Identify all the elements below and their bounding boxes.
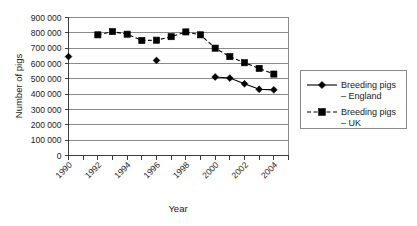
series-england	[65, 53, 277, 93]
y-tick-label: 500 000	[31, 74, 62, 84]
square-marker-icon	[319, 109, 326, 116]
y-tick-label: 300 000	[31, 105, 62, 115]
y-tick-label: 200 000	[31, 120, 62, 130]
data-point-marker	[65, 53, 72, 60]
data-point-marker	[95, 32, 101, 38]
x-tick-label: 2004	[259, 160, 280, 181]
y-tick-label: 0	[57, 151, 62, 161]
x-tick-label: 1996	[141, 160, 162, 181]
x-tick-label: 2000	[200, 160, 221, 181]
chart-page: 0100 000200 000300 000400 000500 000600 …	[0, 0, 417, 226]
x-tick-label: 1998	[171, 160, 192, 181]
legend-label-england-line2: – England	[341, 91, 382, 101]
legend: Breeding pigs – England Breeding pigs – …	[301, 71, 407, 129]
data-point-marker	[271, 71, 277, 77]
pig-population-line-chart: 0100 000200 000300 000400 000500 000600 …	[0, 0, 417, 226]
data-point-marker	[153, 57, 160, 64]
x-tick-label: 2002	[229, 160, 250, 181]
data-point-marker	[212, 45, 218, 51]
y-tick-marks	[65, 18, 69, 156]
series-line	[98, 32, 274, 74]
data-point-marker	[109, 29, 115, 35]
data-point-marker	[183, 29, 189, 35]
data-point-marker	[139, 37, 145, 43]
data-point-marker	[153, 37, 159, 43]
x-axis-title: Year	[168, 203, 187, 214]
data-point-marker	[124, 31, 130, 37]
x-tick-label: 1992	[83, 160, 104, 181]
plot-gridlines	[69, 18, 289, 141]
data-point-marker	[241, 80, 248, 87]
y-axis-title: Number of pigs	[13, 54, 24, 119]
data-point-marker	[168, 34, 174, 40]
y-tick-label: 700 000	[31, 43, 62, 53]
y-tick-label: 400 000	[31, 89, 62, 99]
data-point-marker	[197, 32, 203, 38]
legend-label-uk-line1: Breeding pigs	[341, 107, 397, 117]
x-tick-label: 1990	[53, 160, 74, 181]
legend-label-england-line1: Breeding pigs	[341, 80, 397, 90]
x-axis-title-text: Year	[168, 203, 187, 214]
series-uk	[95, 29, 277, 78]
y-tick-label: 600 000	[31, 59, 62, 69]
plot-border-group	[69, 18, 289, 156]
y-tick-label: 900 000	[31, 13, 62, 23]
y-axis-tick-labels: 0100 000200 000300 000400 000500 000600 …	[31, 13, 62, 161]
y-tick-label: 100 000	[31, 135, 62, 145]
x-tick-label: 1994	[112, 160, 133, 181]
y-tick-label: 800 000	[31, 28, 62, 38]
data-point-marker	[270, 86, 277, 93]
data-point-marker	[227, 54, 233, 60]
data-point-marker	[226, 75, 233, 82]
data-point-marker	[212, 74, 219, 81]
x-axis-tick-labels: 19901992199419961998200020022004	[53, 160, 279, 181]
data-point-marker	[241, 60, 247, 66]
y-axis-title-text: Number of pigs	[13, 54, 24, 119]
data-point-marker	[256, 86, 263, 93]
legend-label-uk-line2: – UK	[341, 118, 361, 128]
data-point-marker	[256, 65, 262, 71]
x-tick-marks	[69, 156, 289, 160]
